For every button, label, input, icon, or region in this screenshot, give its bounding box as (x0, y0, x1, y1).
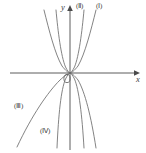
figure-canvas (0, 0, 146, 153)
curve-II-lower-branch (57, 73, 70, 148)
y-axis-arrowhead (67, 5, 73, 11)
curve-label-II: (Ⅱ) (76, 3, 83, 10)
x-axis-label: x (136, 75, 140, 84)
curve-I-lower-branch (17, 73, 70, 147)
y-axis-label: y (61, 3, 65, 12)
curve-III-lower-branch (70, 73, 84, 148)
curve-label-III: (Ⅲ) (14, 103, 23, 110)
curve-label-I: (Ⅰ) (96, 3, 102, 10)
curve-label-IV: (Ⅳ) (40, 128, 50, 135)
curve-III-upper-branch (56, 10, 70, 73)
power-function-figure: y x O (Ⅱ) (Ⅰ) (Ⅲ) (Ⅳ) (0, 0, 146, 153)
curve-II-upper-branch (70, 10, 84, 73)
